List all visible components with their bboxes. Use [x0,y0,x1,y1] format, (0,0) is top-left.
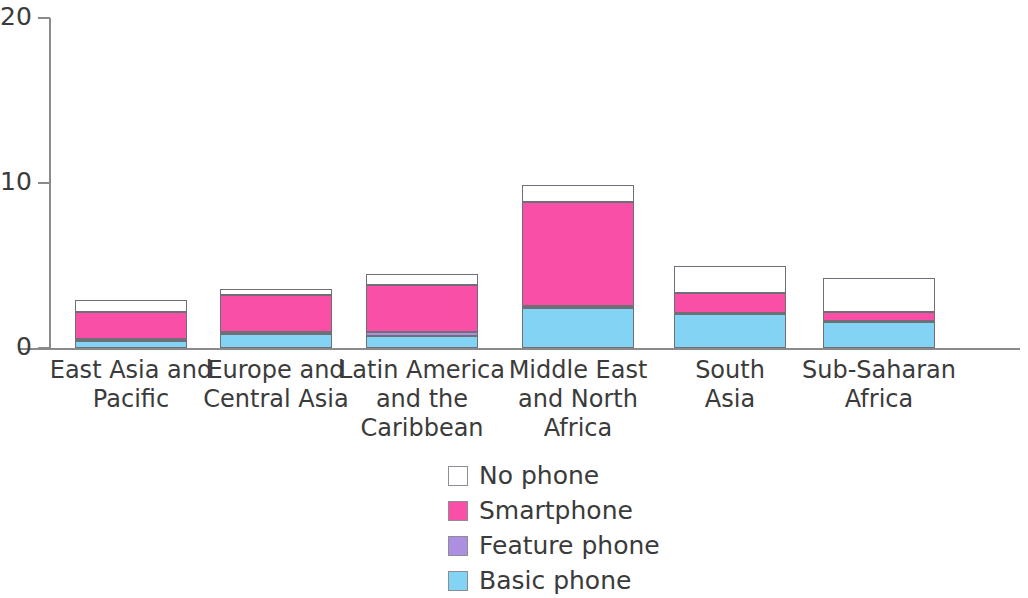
bar-segment-no-phone [220,289,332,296]
legend-swatch-icon [448,571,468,591]
legend-swatch-icon [448,501,468,521]
bar-segment-smartphone [75,312,187,339]
bar-segment-smartphone [366,285,478,332]
x-axis-labels: East Asia and PacificEurope and Central … [0,356,1028,456]
bar-segment-basic-phone [366,336,478,348]
bar-segment-basic-phone [220,334,332,348]
plot-area: 20100 [0,0,1028,352]
legend-label: Smartphone [479,498,633,523]
bar-segment-smartphone [823,312,935,321]
bar-segment-smartphone [522,202,634,306]
legend-item[interactable]: No phone [448,458,768,493]
bar-segment-basic-phone [522,308,634,348]
legend-swatch-icon [448,466,468,486]
bar-group [366,274,478,348]
bar-group [823,278,935,348]
legend-item[interactable]: Feature phone [448,528,768,563]
bar-group [75,300,187,348]
legend-label: Basic phone [479,568,631,593]
bar-segment-basic-phone [823,322,935,348]
legend-swatch-icon [448,536,468,556]
legend-label: No phone [479,463,599,488]
bar-segment-no-phone [75,300,187,312]
chart-legend: No phoneSmartphoneFeature phoneBasic pho… [448,458,768,598]
bar-segment-no-phone [674,266,786,293]
bar-group [220,289,332,348]
legend-item[interactable]: Basic phone [448,563,768,598]
legend-item[interactable]: Smartphone [448,493,768,528]
bar-segment-no-phone [823,278,935,312]
bar-segment-feature-phone [366,332,478,335]
bar-segment-smartphone [674,293,786,314]
bar-group [674,266,786,349]
x-axis-label: Sub-Saharan Africa [769,356,989,414]
legend-label: Feature phone [479,533,660,558]
bar-segment-no-phone [522,185,634,202]
bar-segment-basic-phone [75,341,187,348]
bar-group [522,185,634,348]
bar-segment-no-phone [366,274,478,286]
bar-segment-smartphone [220,295,332,332]
bars-layer [0,0,1028,350]
bar-segment-basic-phone [674,314,786,348]
bar-segment-feature-phone [522,306,634,308]
